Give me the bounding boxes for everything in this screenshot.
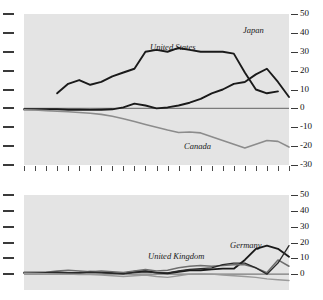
x-tick-mark (168, 166, 169, 171)
y-tick-label: 30 (300, 222, 309, 231)
x-tick-mark (134, 166, 135, 171)
y-tick-mark-left (3, 210, 14, 212)
y-tick-mark-left (3, 242, 14, 244)
figure-canvas: 50403020100-10-20-30 United StatesJapanC… (0, 0, 323, 300)
x-tick-mark (157, 166, 158, 171)
x-tick-mark (46, 166, 47, 171)
y-tick-mark-right (291, 227, 298, 228)
y-tick-label: 20 (300, 66, 309, 75)
series-line-united-states (57, 48, 278, 93)
x-tick-mark (57, 166, 58, 171)
x-tick-mark (201, 166, 202, 171)
y-tick-mark-left (3, 89, 14, 91)
series-label-germany: Germany (230, 240, 262, 250)
y-tick-label: -20 (300, 141, 312, 150)
y-tick-mark-right (291, 258, 298, 259)
x-tick-mark (278, 166, 279, 171)
y-tick-label: -30 (300, 160, 312, 169)
x-tick-mark (256, 166, 257, 171)
y-tick-mark-right (291, 71, 298, 72)
x-tick-mark (24, 166, 25, 171)
y-tick-mark-right (291, 165, 298, 166)
y-tick-label: 30 (300, 47, 309, 56)
y-tick-mark-right (291, 195, 298, 196)
series-line-united-kingdom (24, 260, 289, 273)
series-line-japan (24, 69, 289, 110)
x-tick-mark (90, 166, 91, 171)
y-tick-mark-left (3, 194, 14, 196)
x-tick-mark (101, 166, 102, 171)
y-tick-mark-left (3, 257, 14, 259)
x-tick-mark (35, 166, 36, 171)
y-tick-mark-left (3, 145, 14, 147)
y-tick-mark-left (3, 273, 14, 275)
y-tick-mark-right (291, 90, 298, 91)
series-label-united-kingdom: United Kingdom (148, 251, 204, 261)
y-tick-label: 20 (300, 238, 309, 247)
x-tick-mark (212, 166, 213, 171)
x-tick-mark (179, 166, 180, 171)
series-label-japan: Japan (243, 25, 264, 35)
x-tick-mark (123, 166, 124, 171)
x-tick-mark (68, 166, 69, 171)
series-label-canada: Canada (184, 141, 211, 151)
y-tick-label: 10 (300, 253, 309, 262)
chart-panel-bottom: 50403020100 GermanyUnited Kingdom (0, 185, 323, 300)
y-tick-label: 40 (300, 28, 309, 37)
y-tick-label: 40 (300, 206, 309, 215)
y-tick-label: 10 (300, 85, 309, 94)
y-tick-mark-left (3, 226, 14, 228)
x-tick-mark (79, 166, 80, 171)
y-tick-mark-left (3, 126, 14, 128)
y-tick-mark-right (291, 33, 298, 34)
x-tick-mark (267, 166, 268, 171)
x-tick-mark (289, 166, 290, 171)
y-tick-mark-left (3, 164, 14, 166)
y-tick-mark-right (291, 274, 298, 275)
series-label-united-states: United States (150, 42, 196, 52)
x-tick-mark (245, 166, 246, 171)
series-svg-top (24, 14, 289, 165)
x-tick-mark (234, 166, 235, 171)
x-tick-mark (112, 166, 113, 171)
y-tick-mark-right (291, 211, 298, 212)
y-tick-mark-right (291, 52, 298, 53)
y-tick-mark-right (291, 108, 298, 109)
plot-area-top (24, 14, 289, 165)
y-tick-label: 50 (300, 9, 309, 18)
y-tick-mark-left (3, 51, 14, 53)
y-tick-mark-right (291, 243, 298, 244)
y-tick-mark-left (3, 70, 14, 72)
x-tick-mark (145, 166, 146, 171)
y-tick-label: 50 (300, 190, 309, 199)
x-tick-mark (190, 166, 191, 171)
y-tick-mark-left (3, 13, 14, 15)
y-tick-label: 0 (300, 103, 305, 112)
y-tick-mark-left (3, 32, 14, 34)
y-tick-mark-left (3, 107, 14, 109)
y-tick-label: -10 (300, 122, 312, 131)
y-tick-mark-right (291, 14, 298, 15)
y-tick-mark-right (291, 127, 298, 128)
y-tick-mark-right (291, 146, 298, 147)
x-tick-mark (223, 166, 224, 171)
series-line-canada (24, 110, 289, 148)
chart-panel-top: 50403020100-10-20-30 United StatesJapanC… (0, 0, 323, 180)
y-tick-label: 0 (300, 269, 305, 278)
